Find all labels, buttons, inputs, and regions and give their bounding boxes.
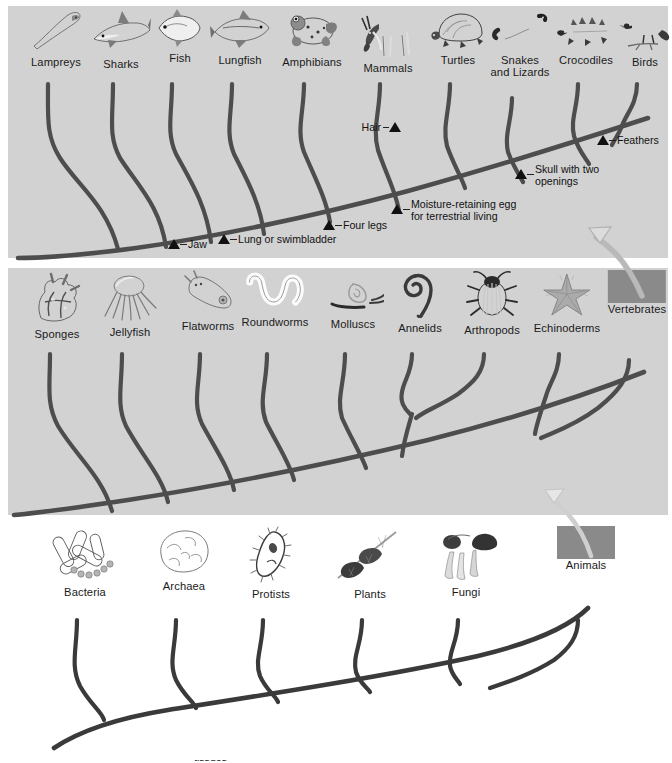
annotation-four-legs-label: Four legs: [343, 219, 387, 231]
taxon-fungi: Fungi: [432, 526, 500, 598]
turtle-icon: [427, 8, 489, 54]
taxon-arthropods: Arthropods: [464, 270, 520, 336]
antelope-icon: [359, 8, 417, 62]
taxon-label: Animals: [557, 559, 615, 571]
bird-icon: [618, 8, 672, 56]
archaea-icon: [153, 526, 215, 580]
annotation-moisture-retaining-egg-for-terrestrial-living-label: Moisture-retaining eggfor terrestrial li…: [411, 198, 561, 222]
taxon-mammals: Mammals: [359, 8, 417, 74]
taxon-label: Vertebrates: [608, 303, 666, 315]
annotation-four-legs-leader-line: [335, 225, 342, 226]
taxon-protists: Protists: [245, 526, 297, 600]
annotation-hair-marker: [389, 122, 401, 132]
taxon-label: Annelids: [393, 322, 447, 334]
annotation-jaw-leader-line: [180, 244, 187, 245]
fish-icon: [151, 8, 209, 52]
taxon-fish: Fish: [151, 8, 209, 64]
annotation-hair-leader-line: [383, 127, 389, 128]
taxon-amphibians: Amphibians: [282, 8, 342, 68]
taxon-label: Molluscs: [322, 318, 384, 330]
taxon-label: Mammals: [359, 62, 417, 74]
starfish-icon: [534, 270, 600, 322]
protist-icon: [245, 526, 297, 588]
taxon-label: Lungfish: [209, 54, 271, 66]
lamprey-icon: [28, 8, 84, 56]
placeholder-box: [608, 270, 666, 303]
taxon-echinoderms: Echinoderms: [534, 270, 600, 334]
annotation-moisture-retaining-egg-for-terrestrial-living-leader-line: [403, 209, 410, 210]
taxon-label: Amphibians: [282, 56, 342, 68]
annotation-feathers-label: Feathers: [617, 134, 659, 146]
snail-icon: [322, 270, 384, 318]
taxon-annelids: Annelids: [393, 270, 447, 334]
taxon-flatworms: Flatworms: [179, 270, 237, 332]
taxon-roundworms: Roundworms: [242, 270, 309, 328]
taxon-sponges: Sponges: [27, 270, 87, 340]
taxon-crocodiles: Crocodiles: [555, 8, 617, 66]
annotation-lung-or-swimbladder-marker: [218, 234, 230, 244]
annotation-moisture-retaining-egg-for-terrestrial-living-marker: [391, 204, 403, 214]
annotation-feathers-marker: [597, 135, 609, 145]
taxon-archaea: Archaea: [153, 526, 215, 592]
taxon-label: Bacteria: [48, 586, 122, 598]
taxon-label: Archaea: [153, 580, 215, 592]
annotation-lung-or-swimbladder-leader-line: [230, 239, 237, 240]
crocodile-icon: [555, 8, 617, 54]
lungfish-icon: [209, 8, 271, 54]
taxon-plants: Plants: [334, 526, 406, 600]
taxon-label: Turtles: [427, 54, 489, 66]
taxon-label: Plants: [334, 588, 406, 600]
taxon-molluscs: Molluscs: [322, 270, 384, 330]
taxon-jellyfish: Jellyfish: [101, 270, 159, 338]
taxon-animals: Animals: [557, 526, 615, 571]
taxon-label: Fish: [151, 52, 209, 64]
annotation-jaw-label: Jaw: [188, 238, 207, 250]
annotation-jaw-marker: [168, 239, 180, 249]
annelid-icon: [393, 270, 447, 322]
domains-of-life-panel: Bacteria Archaea Protists Plants: [8, 524, 668, 760]
taxon-turtles: Turtles: [427, 8, 489, 66]
sponge-icon: [27, 270, 87, 328]
vertebrate-phylogeny-panel: Lampreys Sharks Fish Lungfish: [8, 6, 668, 258]
taxon-label: Flatworms: [179, 320, 237, 332]
taxon-label: Lampreys: [28, 56, 84, 68]
taxon-vertebrates: Vertebrates: [608, 270, 666, 315]
taxon-label: Roundworms: [242, 316, 309, 328]
taxon-label: Birds: [618, 56, 672, 68]
taxon-label: Echinoderms: [534, 322, 600, 334]
taxon-label: Jellyfish: [101, 326, 159, 338]
placeholder-box: [557, 526, 615, 559]
beetle-icon: [464, 270, 520, 324]
taxon-birds: Birds: [618, 8, 672, 68]
shark-icon: [90, 8, 152, 58]
plant-icon: [334, 526, 406, 588]
roundworm-icon: [242, 270, 309, 316]
taxon-label: Sharks: [90, 58, 152, 70]
jellyfish-icon: [101, 270, 159, 326]
taxon-label: Protists: [245, 588, 297, 600]
snake-icon: [483, 8, 557, 54]
annotation-skull-with-two-openings-leader-line: [527, 174, 534, 175]
taxon-label: Snakesand Lizards: [483, 54, 557, 79]
taxon-sharks: Sharks: [90, 8, 152, 70]
annotation-skull-with-two-openings-label: Skull with twoopenings: [535, 163, 645, 187]
annotation-four-legs-marker: [323, 220, 335, 230]
frog-icon: [282, 8, 342, 56]
annotation-feathers-leader-line: [609, 140, 616, 141]
annotation-lung-or-swimbladder-label: Lung or swimbladder: [238, 233, 336, 245]
fungi-icon: [432, 526, 500, 586]
taxon-label: Fungi: [432, 586, 500, 598]
annotation-skull-with-two-openings-marker: [515, 169, 527, 179]
flatworm-icon: [179, 270, 237, 320]
taxon-lampreys: Lampreys: [28, 8, 84, 68]
taxon-lungfish: Lungfish: [209, 8, 271, 66]
taxon-label: Sponges: [27, 328, 87, 340]
annotation-hair-label: Hair: [362, 121, 381, 133]
animal-phylogeny-panel: Sponges Jellyfish Flatworms Roundworms M…: [8, 268, 668, 515]
bacteria-icon: [48, 526, 122, 586]
taxon-snakes-and-lizards: Snakesand Lizards: [483, 8, 557, 79]
taxon-bacteria: Bacteria: [48, 526, 122, 598]
taxon-label: Crocodiles: [555, 54, 617, 66]
taxon-label: Arthropods: [464, 324, 520, 336]
